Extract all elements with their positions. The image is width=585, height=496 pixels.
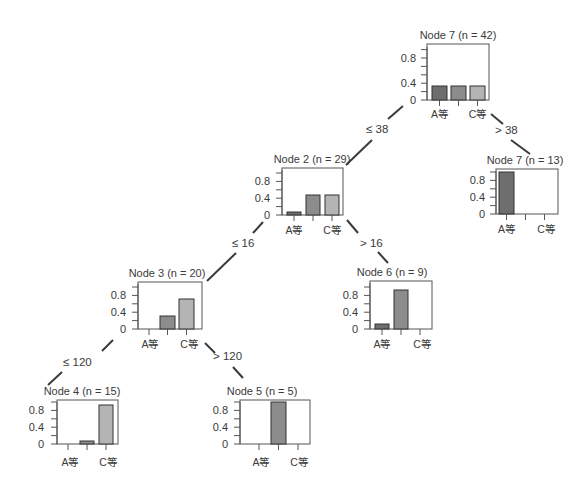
svg-text:0: 0	[410, 94, 416, 106]
node-3: Node 3 (n = 20) 0 0.4 0.8 A等 C等	[111, 267, 206, 350]
y-axis: 0 0.4 0.8	[29, 402, 57, 450]
y-axis: 0 0.4 0.8	[111, 284, 138, 335]
bar-a	[287, 212, 301, 215]
category-label-c: C等	[469, 108, 488, 120]
edge-label-gt-16: > 16	[360, 237, 383, 249]
svg-text:0.8: 0.8	[29, 404, 44, 416]
edge-node3-left-upper	[102, 340, 113, 351]
svg-text:0.8: 0.8	[401, 52, 416, 64]
svg-text:0.4: 0.4	[255, 192, 270, 204]
svg-text:0.4: 0.4	[111, 306, 126, 318]
edge-label-le-120: ≤ 120	[63, 356, 92, 368]
bar-b	[451, 86, 466, 100]
svg-text:0: 0	[264, 209, 270, 221]
svg-text:0.8: 0.8	[111, 289, 126, 301]
svg-text:0: 0	[222, 438, 228, 450]
category-label-a: A等	[252, 456, 270, 468]
node-title: Node 6 (n = 9)	[357, 266, 428, 278]
edge-node2-left-lower	[207, 253, 236, 281]
category-label-a: A等	[285, 224, 303, 236]
svg-text:0: 0	[479, 208, 485, 220]
node-6: Node 6 (n = 9) 0 0.4 0.8 A等 C等	[343, 266, 432, 350]
y-axis: 0 0.4 0.8	[255, 170, 282, 221]
edge-node2-right-upper	[347, 220, 358, 233]
node-5: Node 5 (n = 5) 0 0.4 0.8 A等 C等	[213, 385, 310, 468]
bar-c	[325, 195, 339, 215]
node-2: Node 2 (n = 29) 0 0.4 0.8 A等 C等	[255, 153, 351, 236]
node-title: Node 4 (n = 15)	[44, 385, 121, 397]
svg-text:0.4: 0.4	[470, 191, 485, 203]
bar-c	[470, 86, 485, 100]
edge-node3-left-lower	[48, 372, 62, 385]
node-title: Node 5 (n = 5)	[227, 385, 298, 397]
node-title: Node 3 (n = 20)	[129, 267, 206, 279]
category-label-a: A等	[431, 108, 449, 120]
category-label-c: C等	[413, 338, 432, 350]
node-root: Node 7 (n = 42) 0 0.4 0.8 A等 C等	[401, 29, 497, 120]
svg-text:0.8: 0.8	[255, 175, 270, 187]
bar-b	[271, 402, 286, 444]
svg-text:0.8: 0.8	[470, 174, 485, 186]
category-label-c: C等	[290, 456, 309, 468]
category-label-a: A等	[141, 338, 159, 350]
edge-root-right-upper	[491, 114, 503, 124]
svg-text:0.4: 0.4	[343, 306, 358, 318]
category-label-c: C等	[537, 223, 556, 235]
decision-tree-diagram: ≤ 38 > 38 ≤ 16 > 16 ≤ 120 > 120 Node 7 (…	[0, 0, 585, 496]
category-label-a: A等	[61, 456, 79, 468]
svg-text:0: 0	[120, 323, 126, 335]
edge-node2-right-lower	[378, 252, 388, 263]
edge-root-left-upper	[388, 106, 403, 119]
bar-b	[80, 441, 94, 444]
category-label-c: C等	[323, 224, 342, 236]
svg-text:0.4: 0.4	[213, 421, 228, 433]
svg-text:0.4: 0.4	[401, 77, 416, 89]
tree-edges	[48, 106, 530, 385]
bar-b	[160, 316, 175, 329]
node-title: Node 2 (n = 29)	[274, 153, 351, 165]
bar-a	[499, 172, 514, 214]
edge-label-gt-120: > 120	[213, 350, 242, 362]
y-axis: 0 0.4 0.8	[401, 47, 427, 106]
y-axis: 0 0.4 0.8	[470, 171, 496, 220]
bar-b	[306, 195, 320, 215]
svg-text:0.8: 0.8	[343, 289, 358, 301]
bar-b	[394, 290, 408, 329]
edge-label-le-16: ≤ 16	[232, 237, 254, 249]
edge-root-right-lower	[511, 140, 530, 154]
node-4: Node 4 (n = 15) 0 0.4 0.8 A等 C等	[29, 385, 121, 468]
edge-node2-left-upper	[253, 222, 263, 233]
svg-text:0.4: 0.4	[29, 421, 44, 433]
svg-text:0.8: 0.8	[213, 404, 228, 416]
svg-text:0: 0	[38, 438, 44, 450]
edge-label-le-38: ≤ 38	[366, 123, 388, 135]
svg-text:0: 0	[352, 323, 358, 335]
category-label-a: A等	[373, 338, 391, 350]
bar-a	[432, 86, 447, 100]
bar-c	[99, 405, 113, 444]
y-axis: 0 0.4 0.8	[213, 402, 240, 450]
edge-node3-right-lower	[233, 367, 243, 378]
node-title: Node 7 (n = 13)	[487, 154, 564, 166]
y-axis: 0 0.4 0.8	[343, 283, 370, 335]
bar-c	[179, 299, 194, 329]
bar-a	[375, 324, 389, 329]
category-label-c: C等	[180, 338, 199, 350]
category-label-c: C等	[99, 456, 118, 468]
edge-label-gt-38: > 38	[495, 124, 518, 136]
node-title: Node 7 (n = 42)	[420, 29, 497, 41]
category-label-a: A等	[498, 223, 516, 235]
node-7-leaf: Node 7 (n = 13) 0 0.4 0.8 A等 C等	[470, 154, 564, 235]
